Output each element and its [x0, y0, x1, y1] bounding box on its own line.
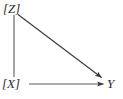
node-label-z: [Z] [3, 2, 20, 15]
edge-z-to-y [18, 15, 102, 78]
node-label-x: [X] [2, 77, 20, 90]
node-label-y: Y [107, 77, 114, 90]
causal-diagram: [Z] [X] Y [0, 0, 123, 99]
